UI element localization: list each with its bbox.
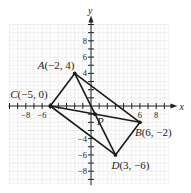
y-tick-label: 8 bbox=[83, 36, 87, 46]
point-coords: (6, −2) bbox=[142, 126, 172, 139]
point-coords: (−5, 0) bbox=[18, 88, 48, 101]
point-coords: (3, −6) bbox=[119, 159, 149, 172]
point-label-P: P bbox=[96, 115, 104, 127]
point-A bbox=[73, 72, 77, 76]
point-label-A: A(−2, 4) bbox=[37, 59, 75, 72]
point-C bbox=[48, 104, 52, 108]
x-tick-label: 6 bbox=[138, 110, 142, 120]
point-label-D: D(3, −6) bbox=[110, 159, 149, 172]
point-D bbox=[114, 153, 118, 157]
x-axis-label: x bbox=[178, 101, 184, 112]
coordinate-plane-diagram: xy−8−668864−4−6−8 A(−2, 4)B(6, −2)C(−5, … bbox=[0, 0, 191, 193]
y-axis-label: y bbox=[87, 5, 93, 16]
y-tick-label: 6 bbox=[83, 52, 87, 62]
point-label-B: B(6, −2) bbox=[135, 126, 172, 139]
y-tick-label: −8 bbox=[78, 166, 87, 176]
y-tick-label: −4 bbox=[78, 134, 88, 144]
x-tick-label: 8 bbox=[154, 110, 158, 120]
y-axis-arrow-icon bbox=[89, 16, 94, 23]
y-tick-label: −6 bbox=[78, 150, 87, 160]
point-coords: (−2, 4) bbox=[44, 59, 74, 72]
x-tick-label: −6 bbox=[38, 110, 47, 120]
coordinate-plane-svg: xy−8−668864−4−6−8 A(−2, 4)B(6, −2)C(−5, … bbox=[0, 0, 191, 193]
point-label-C: C(−5, 0) bbox=[10, 88, 48, 101]
point-letter: P bbox=[96, 115, 104, 127]
point-letter: D bbox=[110, 159, 119, 171]
x-tick-label: −8 bbox=[21, 110, 30, 120]
x-axis-arrow-icon bbox=[170, 104, 177, 109]
point-B bbox=[138, 120, 142, 124]
